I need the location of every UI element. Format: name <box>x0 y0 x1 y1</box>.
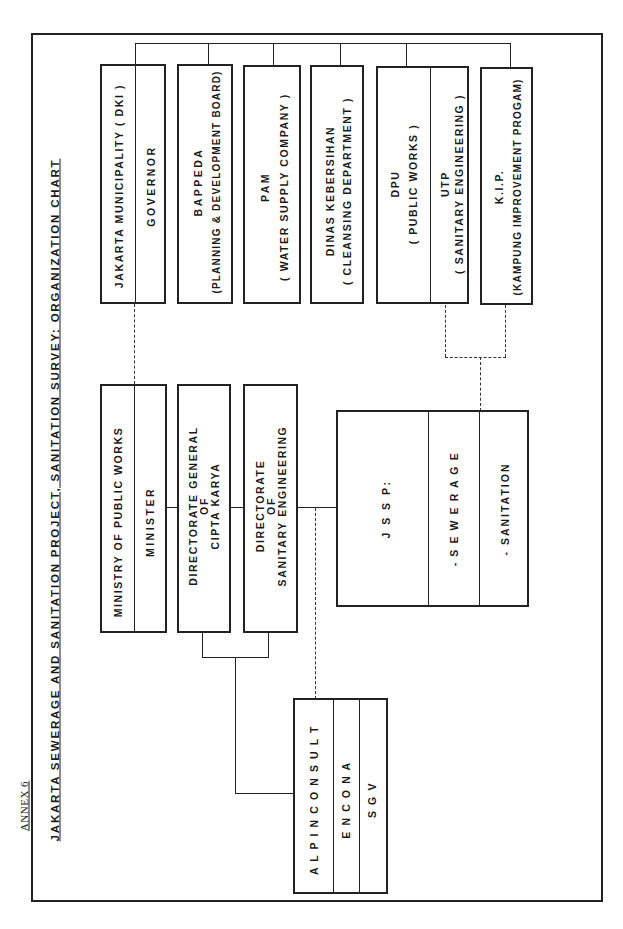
bappeda-name: BAPPEDA <box>193 148 204 217</box>
kip-name: K.I.P. <box>494 170 505 205</box>
box-directorate-general-cipta-karya: DIRECTORATE GENERAL OF CIPTA KARYA <box>177 384 231 633</box>
connector-bracket-down <box>235 657 236 794</box>
dg-line3: CIPTA KARYA <box>210 426 221 586</box>
box-dinas-kebersihan: DINAS KEBERSIHAN ( CLEANSING DEPARTMENT … <box>310 65 364 304</box>
connector-bappeda <box>208 43 209 65</box>
connector-ministry-dg <box>166 507 178 508</box>
box-consultants: A L P I N C O N S U L T E N C O N A S G … <box>293 698 388 894</box>
utp-name: UTP <box>440 171 451 197</box>
box-kip: K.I.P. (KAMPUNG IMPROVEMENT PROGAM) <box>480 67 533 305</box>
ministry-role: MINISTER <box>145 487 156 557</box>
dinas-name: DINAS KEBERSIHAN <box>325 126 336 257</box>
box-jssp: J S S P: - S E W E R A G E - SANITATION <box>336 410 529 607</box>
dse-line3: SANITARY ENGINEERING <box>277 426 288 587</box>
dse-label: DIRECTORATE OF SANITARY ENGINEERING <box>255 426 288 587</box>
connector-dinas <box>340 43 341 65</box>
connector-dg-down <box>202 632 203 658</box>
box-dpu-utp: DPU ( PUBLIC WORKS ) UTP ( SANITARY ENGI… <box>376 66 469 304</box>
connector-dg-dse <box>230 507 244 508</box>
consultant-sgv: S G V <box>367 782 378 818</box>
dg-label: DIRECTORATE GENERAL OF CIPTA KARYA <box>188 426 221 586</box>
bappeda-desc: (PLANNING & DEVELOPMENT BOARD) <box>211 70 222 293</box>
connector-kip <box>510 43 511 67</box>
jssp-title: J S S P: <box>381 479 392 538</box>
dpu-name: DPU <box>390 171 401 198</box>
consultant-alpinconsult: A L P I N C O N S U L T <box>309 725 320 875</box>
box-ministry-public-works: MINISTRY OF PUBLIC WORKS MINISTER <box>100 384 167 633</box>
dashed-link-jssp <box>480 357 481 411</box>
connector-dki <box>135 43 136 65</box>
annex-label: ANNEX 6 <box>19 781 30 831</box>
dinas-desc: ( CLEANSING DEPARTMENT ) <box>342 97 353 285</box>
dashed-bracket-utp-kip <box>445 357 506 358</box>
jssp-sanitation: - SANITATION <box>500 462 511 555</box>
box-jakarta-municipality: JAKARTA MUNICIPALITY ( DKI ) GOVERNOR <box>100 64 166 304</box>
pam-name: PAM <box>260 172 271 202</box>
dki-role: GOVERNOR <box>146 145 157 226</box>
utp-desc: ( SANITARY ENGINEERING ) <box>454 94 465 274</box>
ministry-name: MINISTRY OF PUBLIC WORKS <box>113 427 124 618</box>
pam-desc: ( WATER SUPPLY COMPANY ) <box>279 93 290 281</box>
box-directorate-sanitary-engineering: DIRECTORATE OF SANITARY ENGINEERING <box>243 384 298 633</box>
dashed-link-kip <box>505 305 506 357</box>
jssp-sewerage: - S E W E R A G E <box>449 452 460 567</box>
dashed-link-dse-consultants <box>315 508 316 699</box>
dki-name: JAKARTA MUNICIPALITY ( DKI ) <box>114 84 125 288</box>
box-pam: PAM ( WATER SUPPLY COMPANY ) <box>243 65 301 304</box>
connector-dse-down <box>268 632 269 658</box>
dashed-link-dki-ministry <box>134 304 135 384</box>
connector-dpu <box>406 43 407 66</box>
consultant-encona: E N C O N A <box>341 761 352 838</box>
connector-pam <box>273 43 274 65</box>
dashed-link-utp <box>445 305 446 357</box>
dpu-desc: ( PUBLIC WORKS ) <box>408 124 419 245</box>
connector-dse-jssp <box>297 507 337 508</box>
top-connector-bus <box>135 43 511 44</box>
box-bappeda: BAPPEDA (PLANNING & DEVELOPMENT BOARD) <box>177 64 233 304</box>
connector-to-consultants <box>235 793 294 794</box>
kip-desc: (KAMPUNG IMPROVEMENT PROGAM) <box>512 79 523 296</box>
chart-title: JAKARTA SEWERAGE AND SANITATION PROJECT,… <box>50 159 61 842</box>
